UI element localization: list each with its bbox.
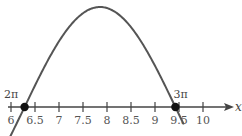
x-tick-label: 6 [8, 114, 15, 127]
x-axis-label: x [235, 100, 242, 114]
zero-point-marker [20, 103, 28, 111]
zero-point-marker [171, 103, 179, 111]
zero-point-label: 2π [4, 88, 18, 101]
x-tick-label: 8 [104, 114, 111, 127]
x-tick-label: 7.5 [74, 114, 92, 127]
zero-point-label: 3π [173, 88, 187, 101]
sine-chart: 66.577.588.599.510 2π3π x [0, 0, 242, 136]
x-tick-label: 10 [196, 114, 210, 127]
x-tick-label: 7 [56, 114, 63, 127]
x-axis [8, 103, 234, 111]
x-tick-label: 6.5 [26, 114, 44, 127]
x-tick-label: 9 [152, 114, 159, 127]
x-tick-label: 8.5 [122, 114, 140, 127]
